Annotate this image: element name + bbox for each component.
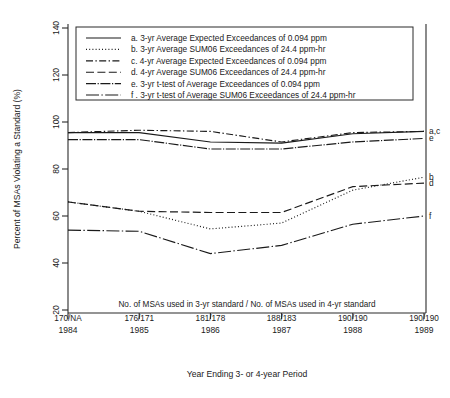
x-tick-group: 198419851986198719881989	[59, 313, 434, 335]
msa-count-label: 190/190	[409, 314, 439, 323]
x-tick-label: 1986	[201, 325, 220, 335]
y-tick-label: 60	[51, 211, 61, 221]
legend-items: a. 3-yr Average Expected Exceedances of …	[86, 33, 356, 100]
msa-count-label: 181/178	[196, 314, 226, 323]
y-tick-label: 80	[51, 164, 61, 174]
x-tick-label: 1989	[415, 325, 434, 335]
x-tick-label: 1988	[343, 325, 362, 335]
series-end-label-f: f	[429, 211, 432, 221]
x-tick-label: 1984	[59, 325, 78, 335]
series-line-f	[68, 216, 424, 254]
legend-label-e: e. 3-yr t-test of Average Exceedances of…	[131, 79, 320, 89]
msa-count-label: 190/190	[338, 314, 368, 323]
msa-count-label: 188/183	[267, 314, 297, 323]
series-line-b	[68, 177, 424, 229]
x-axis-title: Year Ending 3- or 4-year Period	[187, 369, 308, 379]
series-end-label-e: e	[429, 133, 434, 143]
y-tick-label: 40	[51, 258, 61, 268]
y-axis-title: Percent of MSAs Violating a Standard (%)	[12, 89, 22, 249]
series-line-e	[68, 138, 424, 149]
legend-label-f: f . 3-yr t-test of Average SUM06 Exceeda…	[131, 90, 356, 100]
msa-counts-row: 170/NA176/171181/178188/183190/190190/19…	[54, 314, 439, 323]
y-tick-label: 100	[51, 115, 61, 129]
series-end-label-d: d	[429, 178, 434, 188]
x-tick-label: 1985	[130, 325, 149, 335]
legend-label-c: c. 4-yr Average Expected Exceedances of …	[131, 56, 326, 66]
msa-count-label: 176/171	[124, 314, 154, 323]
x-tick-label: 1987	[272, 325, 291, 335]
series-line-d	[68, 183, 424, 212]
line-chart: 20406080100120140 1984198519861987198819…	[0, 0, 450, 398]
legend-label-b: b. 3-yr Average SUM06 Exceedances of 24.…	[131, 44, 326, 54]
series-end-labels: a,cbdef	[429, 126, 440, 221]
y-tick-group: 20406080100120140	[51, 21, 68, 315]
y-tick-label: 140	[51, 21, 61, 35]
chart-root: 20406080100120140 1984198519861987198819…	[0, 0, 450, 398]
legend-label-d: d. 4-yr Average SUM06 Exceedances of 24.…	[131, 67, 326, 77]
msa-count-label: 170/NA	[54, 314, 82, 323]
series-line-c	[68, 130, 424, 142]
legend-label-a: a. 3-yr Average Expected Exceedances of …	[131, 33, 327, 43]
msa-counts-header: No. of MSAs used in 3-yr standard / No. …	[118, 300, 376, 309]
series-group	[68, 130, 424, 253]
y-tick-label: 120	[51, 68, 61, 82]
